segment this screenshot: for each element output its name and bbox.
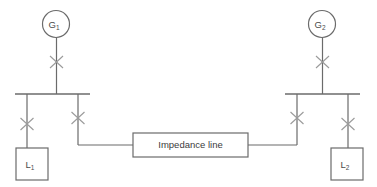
impedance-line-label: Impedance line: [158, 139, 222, 150]
impedance-line[interactable]: Impedance line: [133, 133, 248, 157]
single-line-diagram-canvas: G1 L1 Impedance: [0, 0, 377, 187]
generator-1[interactable]: G1: [43, 11, 70, 38]
load-2[interactable]: L2: [331, 148, 363, 180]
load-1[interactable]: L1: [16, 148, 48, 180]
power-system-diagram: G1 L1 Impedance: [0, 0, 377, 187]
generator-2[interactable]: G2: [309, 11, 336, 38]
